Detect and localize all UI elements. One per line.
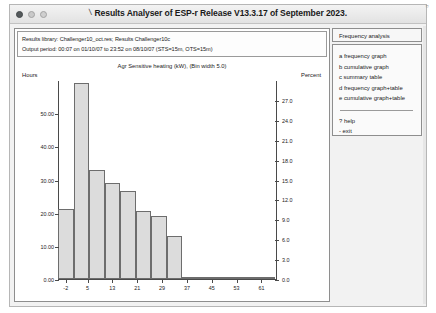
y-axis-tick	[55, 214, 59, 215]
menu-item-b[interactable]: b cumulative graph	[333, 62, 421, 73]
y2-axis-tick-label: 18.0	[282, 158, 308, 164]
x-axis-tick	[162, 279, 163, 283]
x-axis-tick-label: 13	[102, 285, 122, 291]
x-axis-tick	[261, 279, 262, 283]
y2-axis-tick-label: 6.0	[282, 237, 308, 243]
y2-axis-label: Percent	[301, 72, 321, 78]
window-title: \Results Analyser of ESP-r Release V13.3…	[10, 8, 426, 18]
histogram-bar	[58, 209, 74, 279]
y2-axis-tick	[275, 220, 279, 221]
menu-item-a[interactable]: a frequency graph	[333, 51, 421, 62]
plot-canvas: 0.0010.0020.0030.0040.0050.000.03.06.09.…	[58, 81, 277, 280]
y-axis-tick-label: 10.00	[14, 244, 54, 250]
y-axis-tick-label: 0.00	[14, 277, 54, 283]
y-axis-tick	[55, 114, 59, 115]
x-axis-tick-label: 29	[152, 285, 172, 291]
histogram-bar	[120, 191, 136, 279]
y-axis-tick-label: 30.00	[14, 178, 54, 184]
histogram-bar	[151, 216, 167, 279]
vertical-scrollbar[interactable]	[423, 26, 426, 304]
y-axis-tick	[55, 247, 59, 248]
results-analyser-window: \Results Analyser of ESP-r Release V13.3…	[9, 4, 427, 307]
x-axis-tick	[66, 279, 67, 283]
histogram-bar	[74, 83, 90, 279]
frequency-analysis-menu: a frequency graphb cumulative graphc sum…	[332, 44, 422, 136]
x-axis-tick	[137, 279, 138, 283]
backslash-icon: \	[88, 7, 92, 17]
histogram-bar	[213, 277, 229, 279]
y2-axis-tick	[275, 200, 279, 201]
y2-axis-tick	[275, 260, 279, 261]
y2-axis-tick	[275, 101, 279, 102]
window-body: Results library: Challenger10_oct.res; R…	[10, 24, 426, 306]
graph-pane: Results library: Challenger10_oct.res; R…	[14, 28, 330, 302]
y2-axis-tick-label: 15.0	[282, 178, 308, 184]
y2-axis-tick	[275, 240, 279, 241]
x-axis-tick-label: 45	[202, 285, 222, 291]
histogram-bar	[105, 183, 121, 279]
y-axis-tick-label: 50.00	[14, 111, 54, 117]
y2-axis-tick-label: 24.0	[282, 118, 308, 124]
y-axis-tick	[55, 147, 59, 148]
histogram-bar	[167, 236, 183, 279]
y-axis-label: Hours	[22, 72, 37, 78]
y2-axis-tick-label: 27.0	[282, 98, 308, 104]
y2-axis-tick	[275, 141, 279, 142]
y2-axis-tick	[275, 121, 279, 122]
menu-pane: Frequency analysis a frequency graphb cu…	[332, 28, 422, 302]
menu-item-c[interactable]: c summary table	[333, 72, 421, 83]
histogram-bar	[182, 277, 198, 279]
x-axis-tick-label: 5	[78, 285, 98, 291]
x-axis-tick	[187, 279, 188, 283]
output-period-line: Output period: 00:07 on 01/10/07 to 23:5…	[22, 44, 322, 54]
window-resize-icon[interactable]: ▫	[421, 0, 433, 12]
menu-item-d[interactable]: d frequency graph+table	[333, 83, 421, 94]
y2-axis-tick-label: 21.0	[282, 138, 308, 144]
y2-axis-tick-label: 12.0	[282, 197, 308, 203]
x-axis-tick-label: 37	[177, 285, 197, 291]
histogram-bar	[136, 211, 152, 279]
window-title-text: Results Analyser of ESP-r Release V13.3.…	[94, 8, 346, 18]
y2-axis-tick	[275, 181, 279, 182]
x-axis-tick-label: 61	[251, 285, 271, 291]
menu-item-e[interactable]: e cumulative graph+table	[333, 93, 421, 104]
x-axis-tick	[237, 279, 238, 283]
y2-axis-tick-label: 0.0	[282, 277, 308, 283]
window-titlebar[interactable]: \Results Analyser of ESP-r Release V13.3…	[10, 5, 426, 24]
menu-item-exit[interactable]: - exit	[333, 126, 421, 137]
x-axis-tick	[88, 279, 89, 283]
y-axis-tick-label: 20.00	[14, 211, 54, 217]
chart-title: Agr Sensitive heating (kW), (Bin width 5…	[17, 63, 327, 69]
results-info-box: Results library: Challenger10_oct.res; R…	[17, 31, 327, 57]
x-axis-tick	[112, 279, 113, 283]
y2-axis-tick	[275, 161, 279, 162]
x-axis-tick-label: -2	[56, 285, 76, 291]
x-axis-line	[58, 279, 277, 280]
menu-item-help[interactable]: ? help	[333, 116, 421, 127]
menu-divider	[340, 110, 413, 111]
menu-header: Frequency analysis	[332, 28, 422, 42]
y2-axis-tick-label: 9.0	[282, 217, 308, 223]
y-axis-tick	[55, 280, 59, 281]
histogram-bar	[89, 170, 105, 279]
results-library-line: Results library: Challenger10_oct.res; R…	[22, 34, 322, 44]
y2-axis-tick-label: 3.0	[282, 257, 308, 263]
histogram-bar	[244, 277, 260, 279]
y-axis-tick	[55, 181, 59, 182]
y2-axis-tick	[275, 280, 279, 281]
frequency-histogram: Agr Sensitive heating (kW), (Bin width 5…	[17, 59, 327, 299]
y-axis-tick-label: 40.00	[14, 144, 54, 150]
x-axis-tick-label: 53	[227, 285, 247, 291]
app-root: \Results Analyser of ESP-r Release V13.3…	[0, 0, 436, 313]
x-axis-tick-label: 21	[127, 285, 147, 291]
x-axis-tick	[212, 279, 213, 283]
